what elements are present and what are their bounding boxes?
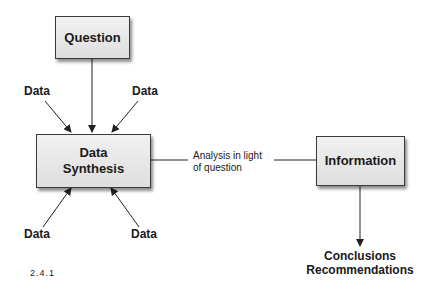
outputs-label: Conclusions Recommendations (300, 249, 420, 277)
question-box: Question (55, 16, 130, 59)
data-input-bottom-right: Data (131, 227, 157, 241)
data-input-bottom-left: Data (24, 227, 50, 241)
information-box: Information (316, 136, 405, 186)
analysis-edge-label-line2: of question (193, 162, 262, 174)
data-top-left-arrow (45, 101, 71, 132)
data-synthesis-box: Data Synthesis (36, 134, 151, 188)
outputs-label-recommendations: Recommendations (300, 263, 420, 277)
analysis-edge-label-line1: Analysis in light (193, 150, 262, 162)
data-input-top-right: Data (132, 84, 158, 98)
information-label: Information (325, 153, 397, 169)
data-synthesis-label-line1: Data (79, 145, 107, 161)
figure-number: 2.4.1 (30, 267, 55, 279)
question-label: Question (64, 30, 120, 46)
outputs-label-conclusions: Conclusions (300, 249, 420, 263)
analysis-edge-label: Analysis in light of question (193, 150, 262, 174)
data-bottom-left-arrow (43, 188, 71, 227)
data-bottom-right-arrow (111, 188, 139, 227)
data-synthesis-label-line2: Synthesis (63, 161, 124, 177)
data-top-right-arrow (112, 101, 138, 132)
data-input-top-left: Data (24, 84, 50, 98)
